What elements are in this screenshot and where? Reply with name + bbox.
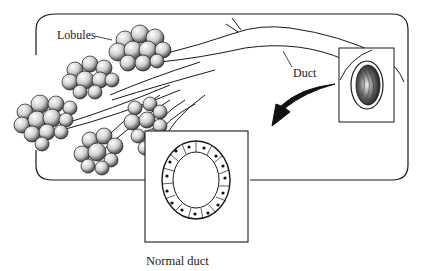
duct-label: Duct bbox=[293, 66, 316, 81]
direction-arrow-icon bbox=[272, 84, 335, 126]
normal-duct-label: Normal duct bbox=[146, 254, 209, 269]
duct-end-inset bbox=[339, 48, 394, 122]
normal-duct-cross-section-inset bbox=[145, 131, 248, 242]
lobule-cluster-top bbox=[109, 25, 171, 71]
lobule-cluster-lower-middle bbox=[74, 128, 123, 175]
lobule-cluster-left bbox=[14, 95, 77, 151]
lobule-cluster-upper-left bbox=[62, 56, 119, 99]
lobules-leader-line bbox=[95, 36, 112, 40]
lobules-label: Lobules bbox=[57, 28, 96, 43]
duct-leader-line bbox=[283, 51, 292, 67]
